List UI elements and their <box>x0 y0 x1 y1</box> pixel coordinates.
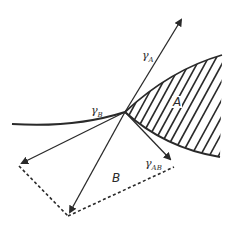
gamma-ab-symbol: γ <box>145 157 152 170</box>
vector-gamma-ab <box>125 112 170 159</box>
label-region-a: A <box>172 96 182 108</box>
diagram-canvas: γA γB γAB A B <box>0 0 241 235</box>
gamma-a-subscript: A <box>149 56 154 64</box>
interface-b <box>12 112 125 125</box>
label-gamma-a: γA <box>142 50 154 64</box>
vector-resultant <box>70 112 125 212</box>
label-region-b: B <box>112 172 120 184</box>
interface-ab <box>125 112 220 157</box>
diagram-svg <box>0 0 241 235</box>
gamma-b-subscript: B <box>98 111 103 119</box>
vector-gamma-b <box>22 112 125 163</box>
dashed-side-right <box>68 167 174 216</box>
label-gamma-ab: γAB <box>145 158 162 172</box>
dashed-side-left <box>19 166 68 216</box>
gamma-b-symbol: γ <box>91 104 98 117</box>
label-gamma-b: γB <box>91 105 103 119</box>
gamma-a-symbol: γ <box>142 49 149 62</box>
gamma-ab-subscript: AB <box>152 164 162 172</box>
